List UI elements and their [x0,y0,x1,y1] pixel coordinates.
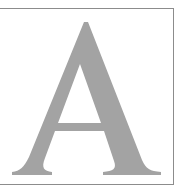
letter-a-shape [12,22,161,175]
letter-a-glyph [0,0,188,196]
